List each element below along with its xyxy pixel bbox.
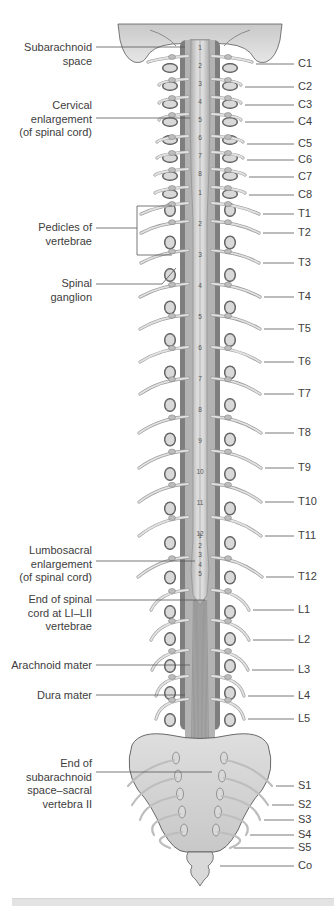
spinal-ganglion	[169, 556, 176, 561]
label-co: Co	[298, 859, 312, 873]
vertebral-pedicle	[223, 118, 237, 126]
label-s1: S1	[298, 779, 311, 793]
label-t3: T3	[298, 256, 311, 270]
vertebral-pedicle	[225, 269, 235, 281]
label-line: Lumbosacral	[19, 544, 92, 558]
spinal-ganglion	[169, 186, 176, 191]
spinal-ganglion	[225, 516, 232, 521]
label-c4: C4	[298, 115, 312, 129]
spinal-ganglion	[225, 282, 232, 287]
cord-segment-number: 5	[198, 313, 202, 320]
vertebral-pedicle	[225, 633, 235, 645]
spinal-ganglion	[169, 649, 176, 654]
cord-segment-number: 2	[198, 542, 202, 549]
vertebral-pedicle	[165, 572, 175, 584]
sacral-foramen	[221, 752, 228, 764]
vertebral-pedicle	[165, 302, 175, 314]
spinal-ganglion	[225, 249, 232, 254]
caption-bar	[12, 898, 334, 906]
spinal-ganglion	[225, 313, 232, 318]
label-line: (of spinal cord)	[19, 126, 92, 140]
label-t12: T12	[298, 570, 317, 584]
label-c5: C5	[298, 137, 312, 151]
spinal-ganglion	[169, 135, 176, 140]
vertebral-pedicle	[165, 714, 175, 726]
label-l2: L2	[298, 633, 310, 647]
sacral-foramen	[213, 824, 220, 836]
spinal-ganglion	[225, 55, 232, 60]
spinal-ganglion	[169, 151, 176, 156]
spinal-ganglion	[169, 675, 176, 680]
vertebral-pedicle	[165, 633, 175, 645]
label-t2: T2	[298, 226, 311, 240]
spinal-ganglion	[225, 202, 232, 207]
spinal-ganglion	[225, 96, 232, 101]
vertebral-pedicle	[163, 64, 177, 72]
label-s5: S5	[298, 841, 311, 855]
label-t9: T9	[298, 461, 311, 475]
sacral-foramen	[179, 806, 186, 818]
label-line: enlargement	[19, 113, 92, 127]
label-t8: T8	[298, 426, 311, 440]
cord-segment-number: 6	[198, 344, 202, 351]
label-lumbosacral-enlargement: Lumbosacralenlargement(of spinal cord)	[19, 544, 92, 585]
label-line: Dura mater	[37, 689, 92, 703]
vertebral-pedicle	[223, 64, 237, 72]
spinal-ganglion	[225, 649, 232, 654]
spinal-ganglion	[169, 482, 176, 487]
coccyx	[187, 852, 214, 886]
spinal-ganglion	[225, 482, 232, 487]
label-l1: L1	[298, 603, 310, 617]
vertebral-pedicle	[165, 606, 175, 618]
vertebral-pedicle	[225, 503, 235, 515]
label-line: Subarachnoid	[24, 41, 92, 55]
label-s4: S4	[298, 828, 311, 842]
cord-segment-number: 8	[198, 406, 202, 413]
spinal-ganglion	[225, 151, 232, 156]
sacral-foramen	[215, 806, 222, 818]
spinal-ganglion	[169, 113, 176, 118]
label-line: Pedicles of	[38, 221, 92, 235]
label-l5: L5	[298, 712, 310, 726]
label-c1: C1	[298, 57, 312, 71]
cord-segment-number: 4	[198, 98, 202, 105]
cord-segment-number: 1	[198, 532, 202, 539]
cord-segment-number: 9	[198, 437, 202, 444]
vertebral-pedicle	[165, 468, 175, 480]
cord-segment-number: 7	[198, 152, 202, 159]
vertebral-pedicle	[225, 302, 235, 314]
cord-segment-number: 8	[198, 170, 202, 177]
spinal-ganglion	[169, 619, 176, 624]
spinal-ganglion	[225, 675, 232, 680]
sacral-foramen	[217, 788, 224, 800]
label-dura-mater: Dura mater	[37, 689, 92, 703]
label-line: enlargement	[19, 558, 92, 572]
label-line: End of spinal	[28, 593, 92, 607]
cord-segment-number: 6	[198, 134, 202, 141]
spinal-ganglion	[225, 698, 232, 703]
spinal-ganglion	[225, 186, 232, 191]
spinal-ganglion	[169, 346, 176, 351]
label-s2: S2	[298, 798, 311, 812]
label-t6: T6	[298, 355, 311, 369]
sacral-foramen	[177, 788, 184, 800]
sacral-foramen	[181, 824, 188, 836]
spinal-ganglion	[225, 220, 232, 225]
label-pedicles-of-vertebrae: Pedicles ofvertebrae	[38, 221, 92, 248]
cord-segment-number: 2	[198, 62, 202, 69]
spinal-ganglion	[169, 516, 176, 521]
spinal-ganglion	[169, 96, 176, 101]
vertebral-pedicle	[163, 118, 177, 126]
label-c7: C7	[298, 170, 312, 184]
label-end-of-spinal-cord: End of spinalcord at LI–LIIvertebrae	[28, 593, 92, 634]
cord-segment-number: 10	[196, 468, 204, 475]
spinal-ganglion	[169, 55, 176, 60]
cord-segment-number: 1	[198, 189, 202, 196]
spinal-ganglion	[225, 619, 232, 624]
label-arachnoid-mater: Arachnoid mater	[11, 659, 92, 673]
label-line: space–sacral	[26, 784, 92, 798]
cord-segment-number: 4	[198, 282, 202, 289]
vertebral-pedicle	[165, 660, 175, 672]
label-line: space	[24, 55, 92, 69]
spinal-ganglion	[225, 556, 232, 561]
